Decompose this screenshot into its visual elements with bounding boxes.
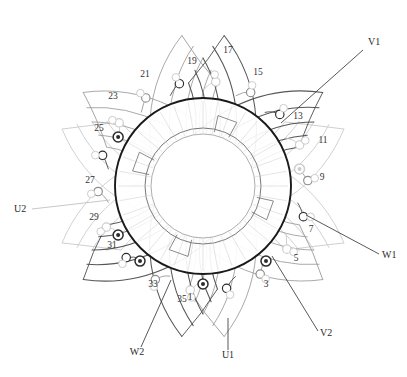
phase-terminal-label-v1: V1 <box>368 36 380 47</box>
slot-number-label: 33 <box>148 279 158 289</box>
phase-terminal-core-dot <box>116 233 120 237</box>
slot-number-label: 7 <box>309 224 314 234</box>
slot-terminal-marker <box>109 116 117 124</box>
slot-number-label: 25 <box>94 123 104 133</box>
phase-terminal-core-dot <box>298 167 302 171</box>
slot-terminal-marker <box>280 104 288 112</box>
slot-terminal-marker <box>302 137 310 145</box>
slot-terminal-marker <box>87 190 95 198</box>
slot-number-label: 21 <box>140 69 150 79</box>
phase-leader-line <box>306 215 379 254</box>
slot-number-label: 11 <box>318 135 327 145</box>
stator-winding-diagram: 1357911131517192123252729313335 V1W1V2U1… <box>0 0 407 377</box>
slot-terminal-marker <box>172 74 180 82</box>
slot-number-label: 3 <box>264 279 269 289</box>
slot-terminal-marker <box>246 88 254 96</box>
slot-number-label: 1 <box>188 292 193 302</box>
phase-leader-line <box>272 256 318 331</box>
slot-terminal-marker <box>311 174 319 182</box>
slot-number-label: 35 <box>177 294 187 304</box>
slot-number-label: 31 <box>107 240 117 250</box>
phase-terminal-core-dot <box>116 135 120 139</box>
winding-canvas: 1357911131517192123252729313335 V1W1V2U1… <box>0 0 407 377</box>
phase-terminal-label-w1: W1 <box>382 249 396 260</box>
slot-terminal-marker <box>137 89 145 97</box>
slot-terminal-marker <box>211 71 219 79</box>
slot-number-label: 13 <box>293 111 303 121</box>
slot-number-label: 27 <box>85 175 95 185</box>
stator-core <box>115 98 291 274</box>
slot-terminal-marker <box>97 228 105 236</box>
core-bore <box>151 134 255 238</box>
phase-terminal-label-u1: U1 <box>222 349 234 360</box>
phase-terminal-label-u2: U2 <box>14 203 26 214</box>
phase-terminal-core-dot <box>201 282 205 286</box>
slot-terminal-marker <box>212 78 220 86</box>
phase-terminal-core-dot <box>264 259 268 263</box>
coil-loop-side <box>83 92 106 147</box>
slot-number-label: 17 <box>223 45 233 55</box>
slot-terminal-marker <box>92 151 100 159</box>
slot-number-label: 29 <box>89 212 99 222</box>
slot-number-label: 5 <box>294 253 299 263</box>
slot-terminal-marker <box>299 213 307 221</box>
slot-number-label: 19 <box>187 56 197 66</box>
slot-terminal-marker <box>226 291 234 299</box>
phase-terminal-label-v2: V2 <box>320 327 332 338</box>
phase-terminal-label-w2: W2 <box>130 346 144 357</box>
phase-leader-line <box>32 200 110 209</box>
slot-number-label: 9 <box>320 172 325 182</box>
slot-terminal-marker <box>307 213 315 221</box>
slot-terminal-marker <box>248 82 256 90</box>
phase-terminal-core-dot <box>138 259 142 263</box>
slot-number-label: 23 <box>108 91 118 101</box>
slot-number-label: 15 <box>253 67 263 77</box>
slot-terminal-marker <box>98 151 106 159</box>
slot-terminal-marker <box>119 260 127 268</box>
